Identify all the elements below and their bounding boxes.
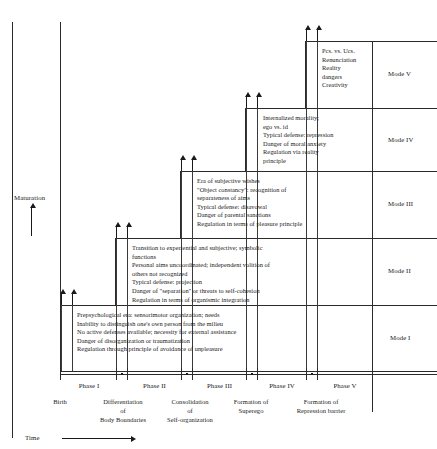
internal-rule-mode1-a	[61, 305, 62, 371]
axis-tick-3a	[246, 368, 247, 380]
axis-marker-2	[186, 373, 188, 375]
time-axis-arrow	[62, 438, 132, 439]
axis-tick-end	[372, 368, 373, 380]
mode-2-description: Transition to experiential and subjectiv…	[132, 244, 314, 304]
mode-3-description: Era of subjective wishes "Object constan…	[197, 177, 347, 229]
mode-5-top-line	[305, 41, 437, 42]
phase-2-label: Phase II	[128, 382, 181, 389]
mode-5-label: Mode V	[388, 70, 411, 77]
event-3-label: Formation of Superego	[215, 397, 287, 415]
axis-tick-3b	[257, 368, 258, 380]
axis-tick-2a	[181, 368, 182, 380]
mode-4-label: Mode IV	[388, 136, 413, 143]
mode-4-description: Internalized morality; ego vs. id Typica…	[263, 114, 375, 166]
internal-rule-mode2-a	[116, 238, 117, 305]
mode-1-label: Mode I	[390, 334, 410, 341]
mode-5-description: Pcs. vs. Ucs. Renunciation Reality dange…	[322, 47, 374, 90]
mode-3-top-line	[180, 171, 437, 172]
phase-1-label: Phase I	[62, 382, 116, 389]
internal-rule-mode3-b	[192, 171, 193, 238]
maturation-axis-arrow	[31, 206, 32, 236]
phase-5-label: Phase V	[318, 382, 372, 389]
phase-3-label: Phase III	[193, 382, 246, 389]
axis-tick-1b	[127, 368, 128, 380]
axis-tick-4a	[306, 368, 307, 380]
y-axis-line	[60, 22, 61, 305]
x-axis-label: Time	[25, 434, 40, 441]
origin-label: Birth	[40, 397, 80, 406]
internal-rule-mode5-a	[306, 41, 307, 108]
mode-2-label: Mode II	[388, 267, 411, 274]
developmental-modes-diagram: Pcs. vs. Ucs. Renunciation Reality dange…	[0, 0, 437, 449]
internal-rule-mode2-b	[127, 238, 128, 305]
axis-tick-1a	[116, 368, 117, 380]
axis-marker-4	[311, 373, 313, 375]
internal-rule-mode5-b	[317, 41, 318, 108]
mode-3-label: Mode III	[388, 200, 413, 207]
axis-marker-3	[251, 373, 253, 375]
mode-4-top-line	[245, 108, 437, 109]
frame-left-border	[12, 22, 13, 438]
internal-rule-mode1-b	[72, 305, 73, 371]
axis-tick-4b	[317, 368, 318, 380]
mode-2-top-line	[115, 238, 437, 239]
internal-rule-mode3-a	[181, 171, 182, 238]
event-4-label: Formation of Repression barrier	[280, 397, 362, 415]
mode-1-description: Prepsychological era: sensorimotor organ…	[77, 311, 269, 354]
internal-rule-mode4-a	[246, 108, 247, 171]
axis-marker-1	[121, 373, 123, 375]
mode-label-column-divider	[372, 41, 373, 412]
y-axis-label: Maturation	[14, 194, 45, 201]
phase-4-label: Phase IV	[258, 382, 306, 389]
axis-tick-birth	[60, 368, 61, 380]
axis-tick-2b	[192, 368, 193, 380]
internal-rule-mode4-b	[257, 108, 258, 171]
